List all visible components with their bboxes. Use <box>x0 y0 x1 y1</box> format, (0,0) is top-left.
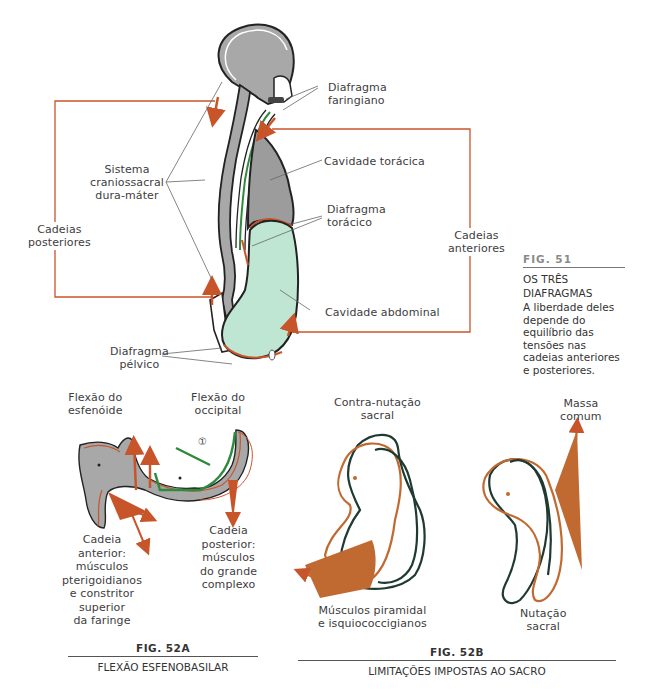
fig51-number: FIG. 51 <box>523 253 572 265</box>
label-cavidade-toracica: Cavidade torácica <box>324 155 425 168</box>
fig52b-divider <box>298 660 616 661</box>
nutation-wedge <box>555 430 582 570</box>
fig51-title: OS TRÊS DIAFRAGMAS <box>523 272 592 300</box>
fig51-description: A liberdade deles depende do equilíbrio … <box>523 301 620 376</box>
label-nutacao-sacral: Nutação sacral <box>520 607 566 633</box>
fig52b-title: LIMITAÇÕES IMPOSTAS AO SACRO <box>298 665 616 677</box>
fig52a-title: FLEXÃO ESFENOBASILAR <box>68 661 258 673</box>
fig52a-divider <box>68 656 258 657</box>
fig52b-sacrum-nutation <box>483 425 582 603</box>
label-diafragma-toracico: Diafragma torácico <box>327 203 386 229</box>
label-cadeias-posteriores: Cadeias posteriores <box>28 222 91 250</box>
sphenoid-bone <box>79 430 249 528</box>
label-cadeia-posterior: Cadeia posterior: músculos do grande com… <box>200 524 257 592</box>
label-cavidade-abdominal: Cavidade abdominal <box>325 306 440 319</box>
fig52b-sacrum-contranutation <box>301 435 425 598</box>
thoracic-cavity <box>248 130 294 228</box>
label-diafragma-faringiano: Diafragma faringiano <box>328 81 387 107</box>
label-cadeias-anteriores: Cadeias anteriores <box>448 228 505 256</box>
label-cadeia-anterior: Cadeia anterior: músculos pterigoidianos… <box>62 533 142 628</box>
fig52a-number: FIG. 52A <box>68 642 258 654</box>
label-flexao-esfenoide: Flexão do esfenóide <box>68 391 123 417</box>
label-sistema-craniossacral: Sistema craniossacral dura-máter <box>90 163 164 202</box>
fig51-divider <box>523 267 625 268</box>
label-massa-comum: Massa comum <box>560 397 602 423</box>
label-diafragma-pelvico: Diafragma pélvico <box>110 345 169 371</box>
marker-one: ① <box>198 435 207 448</box>
label-musculos-piramidal: Músculos piramidal e isquiococcigianos <box>318 604 427 630</box>
label-flexao-occipital: Flexão do occipital <box>191 391 245 417</box>
label-contra-nutacao: Contra-nutação sacral <box>334 396 421 422</box>
fig52b-number: FIG. 52B <box>298 646 616 658</box>
